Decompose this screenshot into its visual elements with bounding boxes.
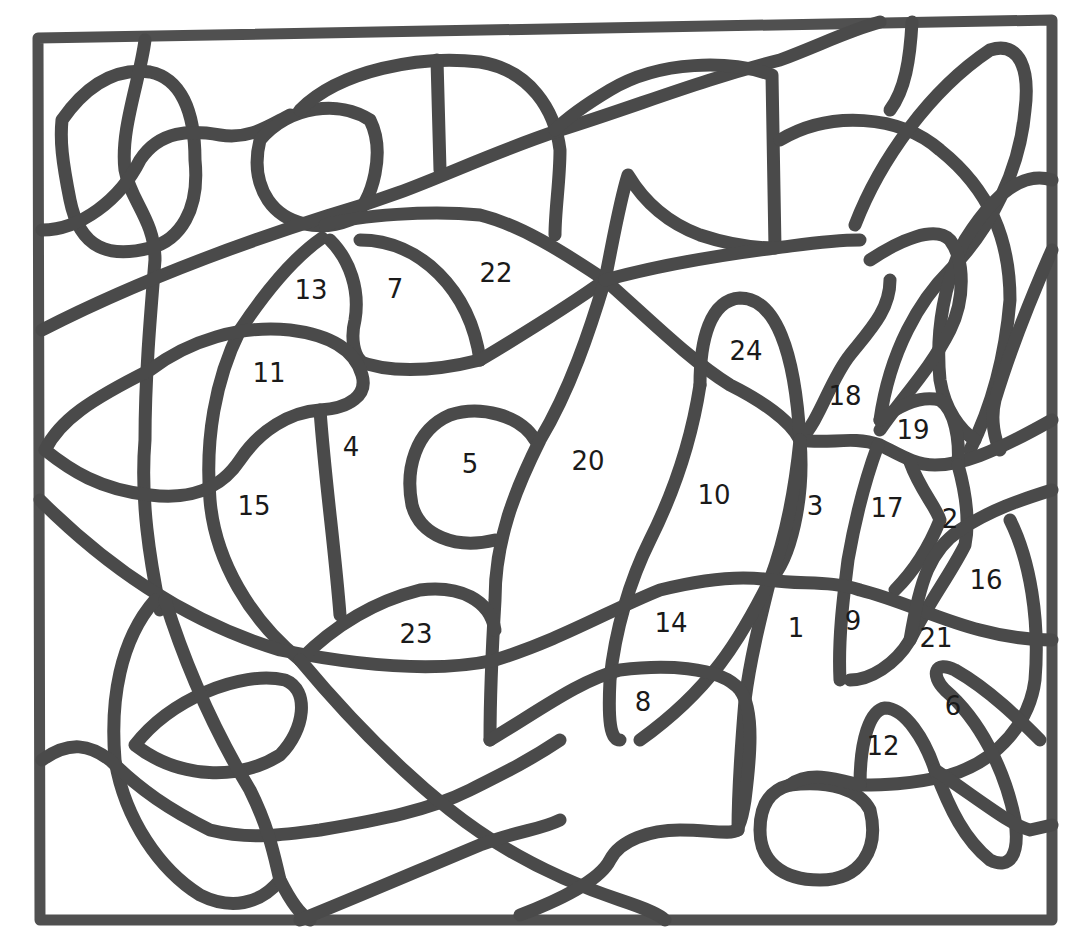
region-label-15: 15 xyxy=(237,493,270,519)
region-label-23: 23 xyxy=(399,621,432,647)
region-label-11: 11 xyxy=(252,360,285,386)
line-art-stroke xyxy=(840,445,878,680)
line-art-stroke xyxy=(300,820,560,920)
line-art-stroke xyxy=(790,777,860,785)
region-label-24: 24 xyxy=(729,338,762,364)
line-art-stroke xyxy=(490,667,750,830)
region-label-20: 20 xyxy=(571,448,604,474)
region-label-8: 8 xyxy=(635,689,652,715)
line-art-stroke xyxy=(437,60,440,170)
region-label-6: 6 xyxy=(945,693,962,719)
region-label-14: 14 xyxy=(654,610,687,636)
region-label-18: 18 xyxy=(828,383,861,409)
region-label-1: 1 xyxy=(788,615,805,641)
region-label-5: 5 xyxy=(462,451,479,477)
line-art-stroke xyxy=(609,385,700,740)
region-label-12: 12 xyxy=(866,733,899,759)
region-label-16: 16 xyxy=(969,567,1002,593)
region-label-22: 22 xyxy=(479,260,512,286)
color-by-number-sheet: 1 2 3 4 5 6 7 8 9 10 11 12 13 14 15 16 1… xyxy=(0,0,1074,939)
line-art-stroke xyxy=(320,410,340,615)
region-label-13: 13 xyxy=(294,277,327,303)
line-art-stroke xyxy=(890,22,912,110)
region-label-10: 10 xyxy=(697,482,730,508)
region-label-4: 4 xyxy=(343,434,360,460)
line-art-drawing xyxy=(0,0,1074,939)
region-label-9: 9 xyxy=(845,608,862,634)
region-label-7: 7 xyxy=(387,276,404,302)
region-label-2: 2 xyxy=(942,506,959,532)
line-art-stroke xyxy=(124,40,160,610)
region-label-19: 19 xyxy=(896,417,929,443)
line-art-stroke xyxy=(360,240,480,360)
region-label-3: 3 xyxy=(807,493,824,519)
line-art-stroke xyxy=(300,589,495,660)
line-art-stroke xyxy=(760,784,873,880)
region-label-17: 17 xyxy=(870,495,903,521)
region-label-21: 21 xyxy=(919,625,952,651)
